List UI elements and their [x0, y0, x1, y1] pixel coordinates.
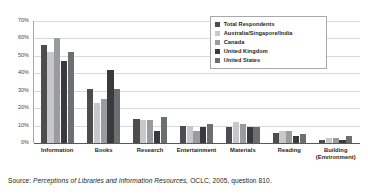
- bar: [300, 134, 306, 143]
- bar: [293, 136, 299, 143]
- legend-swatch-icon: [215, 58, 220, 63]
- bar: [114, 89, 120, 143]
- legend-label: United Kingdom: [224, 49, 268, 55]
- legend-item[interactable]: United States: [215, 56, 321, 65]
- legend-swatch-icon: [215, 31, 220, 36]
- source-title: Perceptions of Libraries and Information…: [33, 177, 188, 184]
- y-axis-tick-30: 30%: [3, 88, 29, 93]
- bar: [180, 126, 186, 143]
- bar: [147, 120, 153, 143]
- bar: [133, 119, 139, 143]
- x-axis-label-line: Books: [80, 147, 126, 154]
- x-axis-label: Reading: [266, 147, 312, 154]
- bar: [200, 127, 206, 143]
- bar: [233, 122, 239, 143]
- y-axis-tick-50: 50%: [3, 53, 29, 58]
- bar-group: [80, 21, 126, 143]
- x-axis-label: Information: [34, 147, 80, 154]
- bar: [94, 103, 100, 143]
- legend-swatch-icon: [215, 22, 220, 27]
- bar: [193, 131, 199, 143]
- legend-swatch-icon: [215, 49, 220, 54]
- x-axis-label: Entertainment: [173, 147, 219, 154]
- bar: [154, 131, 160, 143]
- bar: [279, 131, 285, 143]
- source-details: OCLC, 2005, question 810.: [190, 177, 271, 184]
- x-axis-label: Research: [127, 147, 173, 154]
- bar: [319, 140, 325, 143]
- bar: [140, 120, 146, 143]
- x-axis-label: Books: [80, 147, 126, 154]
- bar: [226, 127, 232, 143]
- legend-swatch-icon: [215, 40, 220, 45]
- bar: [47, 52, 53, 143]
- y-axis-tick-60: 60%: [3, 35, 29, 40]
- y-axis-tick-0: 0%: [3, 140, 29, 145]
- bar-group: [34, 21, 80, 143]
- chart-legend: Total RespondentsAustralia/Singapore/Ind…: [210, 16, 327, 69]
- y-axis-tick-10: 10%: [3, 123, 29, 128]
- source-caption: Source: Perceptions of Libraries and Inf…: [8, 177, 272, 184]
- x-axis-label-line: Entertainment: [173, 147, 219, 154]
- bar: [286, 131, 292, 143]
- bar: [87, 89, 93, 143]
- x-axis-label-line: Information: [34, 147, 80, 154]
- bar: [68, 52, 74, 143]
- bar-group: [127, 21, 173, 143]
- y-axis-tick-20: 20%: [3, 105, 29, 110]
- legend-item[interactable]: Canada: [215, 38, 321, 47]
- legend-item[interactable]: United Kingdom: [215, 47, 321, 56]
- bar: [54, 38, 60, 143]
- x-axis-label-line: Research: [127, 147, 173, 154]
- source-label: Source:: [8, 177, 31, 184]
- legend-item[interactable]: Australia/Singapore/India: [215, 29, 321, 38]
- bar: [346, 136, 352, 143]
- x-axis-label-line: (Environment): [313, 154, 359, 161]
- bar: [333, 138, 339, 143]
- x-axis-label-line: Building: [313, 147, 359, 154]
- bar: [161, 117, 167, 143]
- bar: [273, 133, 279, 143]
- bar: [247, 127, 253, 143]
- bar: [187, 126, 193, 143]
- axis-baseline: [34, 143, 360, 144]
- y-axis-tick-40: 40%: [3, 70, 29, 75]
- bar: [240, 124, 246, 143]
- bar: [61, 61, 67, 143]
- legend-label: Total Respondents: [224, 22, 275, 28]
- x-axis-label: Materials: [220, 147, 266, 154]
- bar: [101, 99, 107, 143]
- x-axis-label-line: Materials: [220, 147, 266, 154]
- chart-figure: 70%60%50%40%30%20%10%0% InformationBooks…: [0, 0, 368, 196]
- bar: [326, 138, 332, 143]
- bar: [207, 124, 213, 143]
- x-axis-label: Building(Environment): [313, 147, 359, 162]
- bar: [41, 45, 47, 143]
- x-axis-label-line: Reading: [266, 147, 312, 154]
- legend-label: Australia/Singapore/India: [224, 31, 293, 37]
- bar: [107, 70, 113, 143]
- legend-label: Canada: [224, 40, 245, 46]
- legend-item[interactable]: Total Respondents: [215, 20, 321, 29]
- legend-label: United States: [224, 58, 260, 64]
- bar: [339, 140, 345, 143]
- bar: [253, 127, 259, 143]
- y-axis-tick-70: 70%: [3, 18, 29, 23]
